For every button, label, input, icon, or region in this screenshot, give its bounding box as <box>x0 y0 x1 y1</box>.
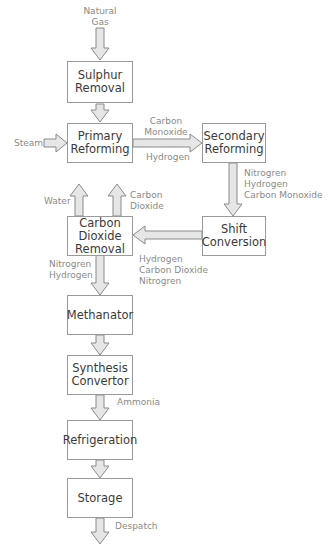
box-storage: Storage <box>67 478 133 518</box>
box-label: Sulphur Removal <box>75 69 125 95</box>
box-carbon-dioxide-removal: Carbon Dioxide Removal <box>67 216 133 256</box>
arrow-steam <box>44 134 67 152</box>
box-primary-reforming: Primary Reforming <box>67 123 133 163</box>
arrow-sulphur-primary <box>91 104 109 122</box>
arrow-natural-gas <box>91 28 109 60</box>
box-methanator: Methanator <box>67 295 133 335</box>
label-steam: Steam <box>14 138 43 149</box>
label-co2-to-methanator: Nitrogren Hydrogen <box>49 259 93 281</box>
box-label: Synthesis Convertor <box>71 362 128 388</box>
label-shift-to-co2: Hydrogen Carbon Dioxide Nitrogren <box>139 254 208 287</box>
box-label: Refrigeration <box>63 434 138 447</box>
arrow-synthesis-refrigeration <box>91 395 109 420</box>
arrow-carbon-dioxide <box>108 184 126 216</box>
arrow-refrigeration-storage <box>91 460 109 478</box>
box-label: Secondary Reforming <box>204 130 265 156</box>
box-label: Methanator <box>67 309 133 322</box>
box-shift-conversion: Shift Conversion <box>202 216 266 256</box>
label-despatch: Despatch <box>115 521 158 532</box>
box-label: Storage <box>78 492 123 505</box>
label-water: Water <box>44 196 71 207</box>
arrow-secondary-shift <box>224 163 242 216</box>
label-ammonia: Ammonia <box>117 397 160 408</box>
box-refrigeration: Refrigeration <box>67 420 133 460</box>
arrow-co2-methanator <box>91 255 109 295</box>
box-synthesis-convertor: Synthesis Convertor <box>67 355 133 395</box>
box-label: Carbon Dioxide Removal <box>75 217 125 256</box>
arrow-water <box>70 184 88 216</box>
arrow-methanator-synthesis <box>91 335 109 355</box>
arrow-despatch <box>91 518 109 544</box>
label-secondary-to-shift: Nitrogren Hydrogen Carbon Monoxide <box>244 168 323 201</box>
box-label: Shift Conversion <box>202 223 266 249</box>
arrow-shift-co2 <box>133 226 202 244</box>
box-sulphur-removal: Sulphur Removal <box>67 61 133 103</box>
label-natural-gas: Natural Gas <box>82 6 118 28</box>
label-carbon-monoxide: Carbon Monoxide <box>143 116 189 138</box>
box-secondary-reforming: Secondary Reforming <box>202 123 266 163</box>
box-label: Primary Reforming <box>70 130 129 156</box>
label-carbon-dioxide: Carbon Dioxide <box>130 190 164 212</box>
label-hydrogen: Hydrogen <box>146 152 190 163</box>
